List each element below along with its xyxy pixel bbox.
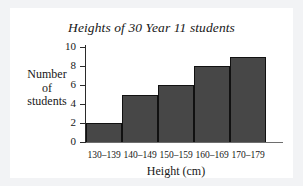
bar-170-179[interactable]	[230, 57, 266, 143]
plot-area: 10 8 6 4 2 0	[85, 47, 283, 142]
bar-150-159[interactable]	[158, 85, 194, 142]
y-tick-label-2: 2	[71, 116, 77, 128]
x-axis-line	[85, 142, 283, 143]
x-tick-label-0: 130–139	[86, 150, 122, 160]
x-axis-title: Height (cm)	[86, 164, 266, 179]
y-tick-label-8: 8	[71, 59, 77, 71]
x-tick-label-3: 160–169	[194, 150, 230, 160]
bar-140-149[interactable]	[122, 95, 158, 143]
x-axis-tick-labels: 130–139 140–149 150–159 160–169 170–179	[86, 150, 266, 160]
x-tick-label-2: 150–159	[158, 150, 194, 160]
x-tick-label-4: 170–179	[230, 150, 266, 160]
x-tick-label-1: 140–149	[122, 150, 158, 160]
screenshot-root: Heights of 30 Year 11 students Number of…	[0, 0, 303, 186]
bar-series	[86, 47, 266, 142]
y-tick-0: 0	[80, 142, 86, 143]
y-tick-label-10: 10	[65, 40, 76, 52]
bar-130-139[interactable]	[86, 123, 122, 142]
y-tick-label-0: 0	[71, 135, 77, 147]
y-tick-label-6: 6	[71, 78, 77, 90]
chart-title: Heights of 30 Year 11 students	[10, 20, 293, 36]
chart-canvas: Heights of 30 Year 11 students Number of…	[10, 8, 293, 178]
bar-160-169[interactable]	[194, 66, 230, 142]
y-tick-label-4: 4	[71, 97, 77, 109]
